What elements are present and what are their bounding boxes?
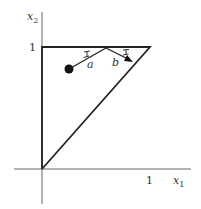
x1-tick-label: 1 [146, 174, 153, 187]
vector-a-tick-icon [84, 51, 91, 58]
x2-axis-label: x2 [27, 10, 38, 25]
x2-tick-label: 1 [29, 41, 36, 54]
arrowhead-icon [124, 55, 133, 62]
vector-b-tick-icon [123, 50, 129, 56]
vector-b-label: b [112, 56, 119, 69]
vector-a-label: a [87, 58, 94, 71]
triangle-region [42, 47, 150, 169]
diagram-canvas: a b x2 1 1 x1 [0, 0, 201, 209]
x1-axis-label: x1 [173, 174, 184, 189]
